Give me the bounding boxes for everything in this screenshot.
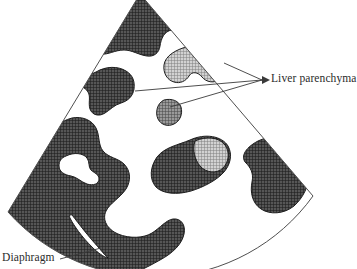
label-diaphragm: Diaphragm [2, 252, 55, 264]
leader-line-to-kidney-blob [224, 63, 262, 80]
region-small-mid-blob [157, 99, 182, 125]
label-liver-parenchyma: Liver parenchyma [271, 73, 357, 85]
leader-arrow-liver-parenchyma [262, 76, 270, 84]
